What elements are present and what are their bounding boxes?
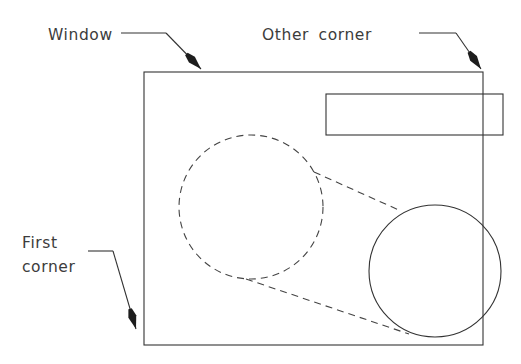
other-corner-leader-group bbox=[419, 33, 481, 69]
solid-circle-entity bbox=[369, 205, 501, 337]
dashed-tangent-line-upper bbox=[314, 172, 401, 211]
dashed-circle-entity bbox=[179, 135, 323, 279]
other-corner-leader-arrowhead bbox=[468, 51, 481, 69]
other-corner-label: Other corner bbox=[262, 26, 372, 44]
first-corner-label-line2: corner bbox=[22, 258, 75, 276]
cad-diagram-canvas: Window Other corner First corner bbox=[0, 0, 521, 364]
window-selection-rectangle bbox=[144, 72, 483, 345]
first-corner-leader-arrowhead bbox=[128, 308, 136, 329]
cad-diagram-svg: Window Other corner First corner bbox=[0, 0, 521, 364]
window-label: Window bbox=[48, 26, 113, 44]
inner-rectangle-entity bbox=[326, 94, 503, 135]
dashed-tangent-line-lower bbox=[246, 279, 409, 334]
window-leader-arrowhead bbox=[185, 53, 201, 69]
window-leader-group bbox=[121, 33, 201, 69]
first-corner-label-line1: First bbox=[22, 234, 58, 252]
first-corner-leader-group bbox=[88, 251, 136, 329]
